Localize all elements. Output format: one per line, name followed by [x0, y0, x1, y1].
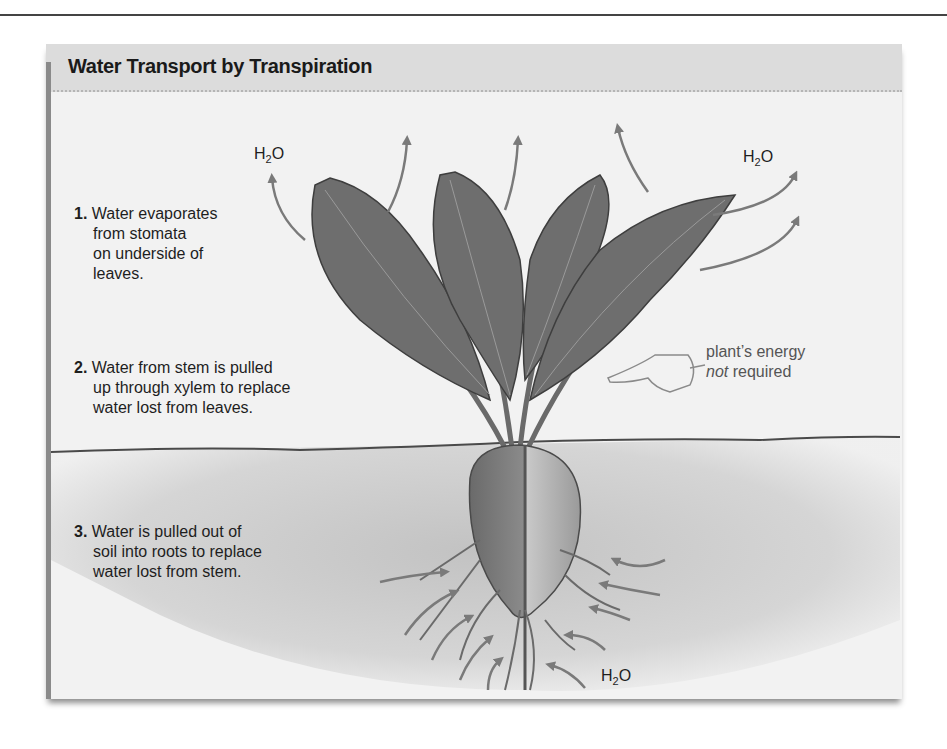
- step-3-label: 3. Water is pulled out of soil into root…: [74, 522, 262, 582]
- h2o-label-top-left: H2O: [254, 145, 284, 165]
- energy-note: plant’s energy not required: [706, 342, 805, 382]
- step-2-label: 2. Water from stem is pulled up through …: [74, 358, 290, 418]
- step-1-label: 1. Water evaporates from stomata on unde…: [74, 204, 217, 284]
- pointing-hand-icon: [608, 355, 705, 392]
- h2o-label-soil: H2O: [601, 667, 631, 687]
- h2o-label-top-right: H2O: [743, 148, 773, 168]
